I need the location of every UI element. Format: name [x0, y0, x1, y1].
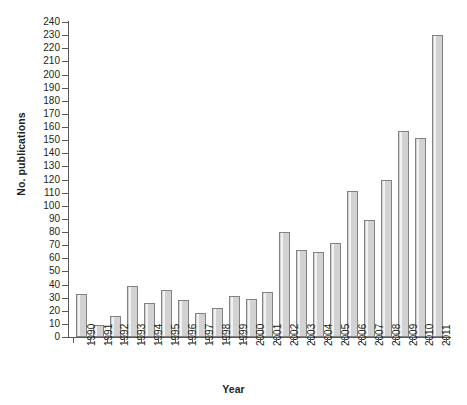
- x-axis-tick-label: 1991: [103, 302, 114, 346]
- y-axis-tick-label-wrap: 150: [0, 135, 60, 145]
- x-axis-tick-label: 1999: [238, 302, 249, 346]
- y-axis-tick-label: 40: [4, 280, 60, 290]
- x-axis-tick-label: 1993: [136, 302, 147, 346]
- y-axis-tick-label-wrap: 140: [0, 148, 60, 158]
- y-axis-tick-label-wrap: 70: [0, 240, 60, 250]
- x-axis-tick: [158, 338, 159, 343]
- x-axis-tick-label: 2009: [408, 302, 419, 346]
- x-axis-tick: [395, 338, 396, 343]
- y-axis-tick-label: 130: [4, 161, 60, 171]
- y-axis-tick-label: 160: [4, 122, 60, 132]
- x-axis-title: Year: [0, 383, 467, 395]
- y-axis-tick-label: 190: [4, 83, 60, 93]
- x-axis-tick-label: 1992: [119, 302, 130, 346]
- x-axis-tick: [378, 338, 379, 343]
- y-axis-tick-label-wrap: 200: [0, 70, 60, 80]
- x-axis-tick: [90, 338, 91, 343]
- x-axis-tick-label: 2003: [306, 302, 317, 346]
- y-axis-tick-label: 240: [4, 17, 60, 27]
- y-axis-tick-label: 30: [4, 293, 60, 303]
- y-axis-tick-label: 100: [4, 201, 60, 211]
- x-axis-tick: [276, 338, 277, 343]
- y-axis-tick-label: 220: [4, 43, 60, 53]
- y-axis-tick-label: 70: [4, 240, 60, 250]
- y-axis-tick-label: 110: [4, 188, 60, 198]
- x-axis-tick: [361, 338, 362, 343]
- y-axis-tick-label: 50: [4, 266, 60, 276]
- x-axis-tick-label: 2006: [357, 302, 368, 346]
- y-axis-tick-label: 150: [4, 135, 60, 145]
- y-axis-tick-label: 0: [4, 332, 60, 342]
- y-axis-tick-label-wrap: 170: [0, 109, 60, 119]
- y-axis-tick-label-wrap: 190: [0, 83, 60, 93]
- x-axis-tick: [327, 338, 328, 343]
- y-axis-tick-label-wrap: 30: [0, 293, 60, 303]
- y-axis-tick-label-wrap: 50: [0, 266, 60, 276]
- y-axis-tick-label-wrap: 130: [0, 161, 60, 171]
- x-axis-tick: [209, 338, 210, 343]
- x-axis-tick: [293, 338, 294, 343]
- y-axis-tick-label: 120: [4, 175, 60, 185]
- x-axis-tick-label: 2011: [441, 302, 452, 346]
- y-axis-tick-label: 10: [4, 319, 60, 329]
- x-axis-tick-label: 1997: [204, 302, 215, 346]
- bar: [432, 35, 443, 337]
- y-axis-tick-label-wrap: 20: [0, 306, 60, 316]
- x-axis-tick-label: 1996: [187, 302, 198, 346]
- y-axis-tick-label-wrap: 220: [0, 43, 60, 53]
- x-axis-tick-label: 1998: [221, 302, 232, 346]
- y-axis-tick-label: 60: [4, 253, 60, 263]
- x-axis-tick: [124, 338, 125, 343]
- y-axis-tick-label: 140: [4, 148, 60, 158]
- x-axis-tick: [344, 338, 345, 343]
- x-axis-tick-label: 2005: [340, 302, 351, 346]
- y-axis-tick-label-wrap: 110: [0, 188, 60, 198]
- x-axis-tick: [446, 338, 447, 343]
- x-axis-tick: [260, 338, 261, 343]
- y-axis-tick-label: 90: [4, 214, 60, 224]
- x-axis-tick: [243, 338, 244, 343]
- x-axis-tick-label: 2004: [323, 302, 334, 346]
- y-axis-tick-label-wrap: 210: [0, 56, 60, 66]
- x-axis-tick: [192, 338, 193, 343]
- x-axis-tick: [175, 338, 176, 343]
- x-axis-tick: [73, 338, 74, 343]
- x-axis-tick-label: 2010: [424, 302, 435, 346]
- x-axis-tick-label: 2000: [255, 302, 266, 346]
- x-axis-tick-label: 2001: [272, 302, 283, 346]
- y-axis-tick-label: 170: [4, 109, 60, 119]
- x-axis-tick-label: 1994: [153, 302, 164, 346]
- x-axis-tick-label: 2007: [374, 302, 385, 346]
- y-axis-tick-label-wrap: 100: [0, 201, 60, 211]
- x-axis-tick-label: 2002: [289, 302, 300, 346]
- y-axis-tick-label: 230: [4, 30, 60, 40]
- y-axis-tick-label: 200: [4, 70, 60, 80]
- y-axis-tick-label-wrap: 90: [0, 214, 60, 224]
- x-axis-tick: [429, 338, 430, 343]
- x-axis-tick: [141, 338, 142, 343]
- x-axis-tick: [412, 338, 413, 343]
- y-axis-tick-label: 80: [4, 227, 60, 237]
- y-axis-tick-label: 210: [4, 56, 60, 66]
- x-axis-tick: [226, 338, 227, 343]
- publications-bar-chart: No. publications 01020304050607080901001…: [0, 0, 467, 405]
- y-axis-tick-label-wrap: 160: [0, 122, 60, 132]
- y-axis-tick-label: 180: [4, 96, 60, 106]
- y-axis-tick-label-wrap: 230: [0, 30, 60, 40]
- y-axis-tick-label-wrap: 180: [0, 96, 60, 106]
- y-axis-tick-label-wrap: 120: [0, 175, 60, 185]
- x-axis-tick-label: 1990: [86, 302, 97, 346]
- x-axis-tick: [310, 338, 311, 343]
- x-axis-tick-label: 1995: [170, 302, 181, 346]
- y-axis-tick: [62, 337, 68, 338]
- y-axis-tick-label-wrap: 80: [0, 227, 60, 237]
- y-axis-tick-label-wrap: 240: [0, 17, 60, 27]
- y-axis-tick-label-wrap: 10: [0, 319, 60, 329]
- y-axis-tick-label-wrap: 40: [0, 280, 60, 290]
- bars-layer: [68, 22, 451, 337]
- x-axis-tick: [107, 338, 108, 343]
- x-axis-tick-label: 2008: [391, 302, 402, 346]
- y-axis-tick-label-wrap: 60: [0, 253, 60, 263]
- y-axis-tick-label: 20: [4, 306, 60, 316]
- y-axis-tick-label-wrap: 0: [0, 332, 60, 342]
